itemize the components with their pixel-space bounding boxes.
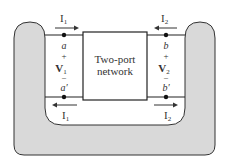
terminal-b-dot [164,33,168,37]
terminal-b-prime-dot [164,95,168,99]
port1-current-bottom: I1 [62,109,70,123]
terminal-b-prime-label: b′ [162,82,170,93]
arrow-left-icon [154,26,177,31]
port1-current-top: I1 [60,12,68,26]
port2-current-top: I2 [161,12,169,26]
port1-plus: + [61,51,66,61]
terminal-a-prime-label: a′ [60,82,68,93]
arrow-left-icon [52,103,77,108]
box-label-line2: network [97,65,134,77]
terminal-a-label: a [62,40,67,51]
arrow-right-icon [154,103,178,108]
terminal-a-prime-dot [62,95,66,99]
box-label-line1: Two-port [95,53,136,65]
port2-plus: + [163,51,168,61]
arrow-right-icon [55,26,79,31]
port2-current-bottom: I2 [164,109,172,123]
terminal-b-label: b [164,40,169,51]
two-port-diagram: Two-port network I1 a + V1 – a′ I1 I2 b … [0,0,229,164]
terminal-a-dot [62,33,66,37]
